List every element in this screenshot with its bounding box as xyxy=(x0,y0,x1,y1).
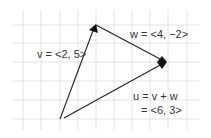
label-w: w = <4, −2> xyxy=(130,28,188,40)
vector-v xyxy=(60,28,94,119)
label-v: v = <2, 5> xyxy=(37,48,86,60)
label-u-line2: = <6, 3> xyxy=(141,104,182,116)
vector-diagram xyxy=(0,0,211,138)
label-u-line1: u = v + w xyxy=(133,90,178,102)
